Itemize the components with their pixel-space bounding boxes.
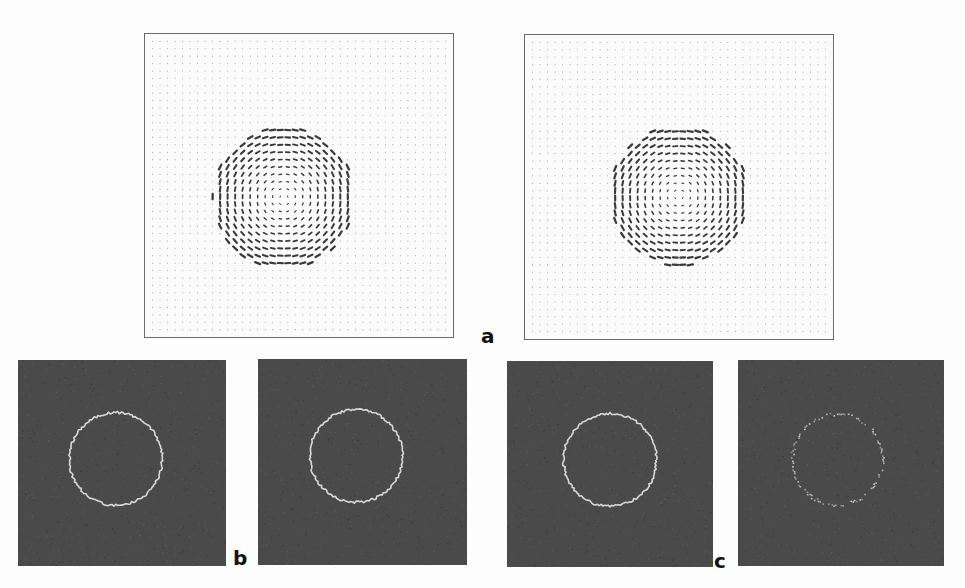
edge-ring-image [507, 361, 713, 567]
edge-ring-image [18, 360, 226, 566]
vector-field-plot [145, 34, 453, 337]
vector-field-panel-a-left [144, 33, 454, 338]
edge-map-panel-b-right [258, 359, 467, 565]
edge-map-panel-c-left [507, 361, 713, 567]
vector-field-plot [525, 35, 833, 339]
vector-field-panel-a-right [524, 34, 834, 340]
panel-label-b: b [233, 548, 247, 568]
edge-ring-image [738, 360, 944, 566]
edge-map-panel-b-left [18, 360, 226, 566]
panel-label-c: c [714, 551, 726, 571]
edge-ring-image [258, 359, 467, 565]
edge-map-panel-c-right [738, 360, 944, 566]
panel-label-a: a [481, 326, 495, 346]
